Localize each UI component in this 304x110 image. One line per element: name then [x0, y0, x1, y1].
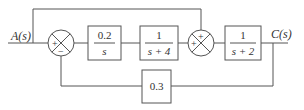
- sum2-left-plus-sign: +: [191, 38, 197, 49]
- g1-denominator: s: [102, 45, 106, 57]
- block-1-over-s-plus-4: 1 s + 4: [140, 26, 178, 60]
- block-0.2-over-s: 0.2 s: [88, 26, 121, 60]
- g3-denominator: s + 2: [232, 45, 255, 57]
- input-label: A(s): [10, 29, 31, 43]
- g1-numerator: 0.2: [98, 29, 112, 41]
- g2-denominator: s + 4: [148, 45, 171, 57]
- sum1-minus-sign: −: [58, 46, 64, 57]
- output-label: C(s): [271, 27, 292, 41]
- block-1-over-s-plus-2: 1 s + 2: [225, 26, 261, 60]
- summing-junction-2: + +: [188, 30, 214, 56]
- h-value: 0.3: [150, 80, 164, 92]
- sum2-top-plus-sign: +: [198, 31, 204, 42]
- summing-junction-1: + −: [48, 30, 74, 57]
- block-diagram: A(s) + − 0.2 s 1 s + 4 + +: [0, 0, 304, 110]
- block-0.3-feedback: 0.3: [142, 70, 171, 103]
- g3-numerator: 1: [240, 29, 246, 41]
- g2-numerator: 1: [156, 29, 162, 41]
